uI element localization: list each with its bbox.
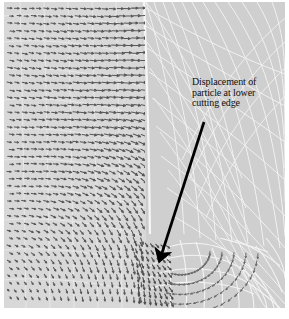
annotation-label: Displacement of particle at lower cuttin… xyxy=(192,77,284,109)
annotation-line-3: cutting edge xyxy=(192,98,284,109)
figure-container: Displacement of particle at lower cuttin… xyxy=(0,0,289,319)
simulation-canvas xyxy=(4,2,285,308)
simulation-plot xyxy=(4,2,285,308)
annotation-line-1: Displacement of xyxy=(192,77,284,88)
